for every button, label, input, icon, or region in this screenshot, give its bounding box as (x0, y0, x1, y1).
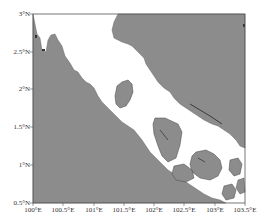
x-tick-label: 103.5°E (234, 207, 257, 214)
y-tick-label: 3°N (19, 11, 30, 18)
x-tick-label: 102.5°E (173, 207, 196, 214)
x-tick-label: 100.5°E (52, 207, 75, 214)
y-tick-label: 2°N (19, 86, 30, 93)
x-tick-label: 101°E (85, 207, 103, 214)
x-tick-label: 101.5°E (113, 207, 136, 214)
y-tick-label: 2.5°N (13, 49, 30, 56)
y-tick-label: 1.5°N (13, 124, 30, 131)
y-axis-ticks (30, 14, 33, 203)
coast-detail-dot (35, 35, 37, 38)
x-tick-label: 103°E (206, 207, 224, 214)
x-tick-label: 102°E (145, 207, 163, 214)
map-canvas (0, 0, 263, 221)
coast-detail-dot (42, 49, 45, 51)
y-tick-label: 1°N (19, 162, 30, 169)
small-island-2 (222, 184, 236, 200)
x-tick-label: 100°E (24, 207, 42, 214)
map-figure: 3°N 2.5°N 2°N 1.5°N 1°N 0.5°N 100°E 100.… (0, 0, 263, 221)
